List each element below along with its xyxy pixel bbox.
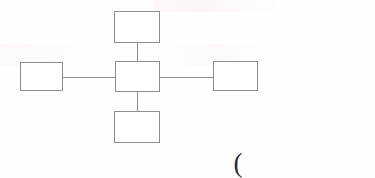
scanned-page: (: [0, 0, 375, 178]
edge-center-to-top: [137, 43, 138, 62]
edge-center-to-right: [160, 77, 213, 78]
diagram-node-center[interactable]: [115, 61, 160, 92]
diagram-node-right[interactable]: [213, 61, 258, 91]
edge-center-to-left: [63, 77, 115, 78]
diagram-node-bottom[interactable]: [114, 111, 160, 143]
diagram-node-top[interactable]: [114, 11, 160, 43]
open-paren-mark: (: [230, 148, 246, 178]
block-diagram: [0, 0, 375, 178]
edge-center-to-bottom: [137, 92, 138, 112]
diagram-node-left[interactable]: [20, 62, 63, 91]
